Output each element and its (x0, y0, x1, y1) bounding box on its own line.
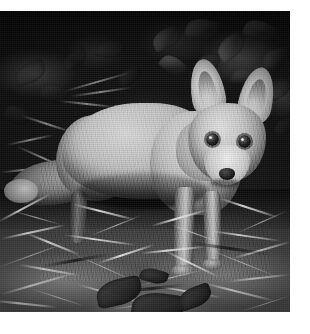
fox-eye-highlight (209, 136, 212, 139)
fox-eye-left (206, 133, 219, 146)
page-canvas (0, 0, 310, 334)
fox-mouth-shadow (210, 179, 240, 187)
fox-tail-tip (4, 179, 38, 203)
fox-eye-right (238, 135, 251, 148)
red-fox-photograph (0, 11, 290, 312)
fox-eye-highlight (241, 138, 244, 141)
